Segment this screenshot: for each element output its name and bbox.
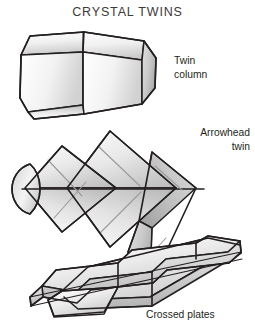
figure-twin-column	[20, 32, 156, 119]
twin-column-right-front-face	[83, 52, 142, 114]
label-crossed-plates: Crossed plates	[146, 308, 215, 322]
crystal-twins-figure: CRYSTAL TWINS	[0, 0, 255, 335]
label-arrowhead-twin: Arrowhead twin	[140, 126, 250, 153]
label-twin-column: Twin column	[174, 54, 207, 81]
twin-column-left-front-face	[20, 52, 83, 112]
crystal-diagrams-svg	[0, 0, 255, 335]
